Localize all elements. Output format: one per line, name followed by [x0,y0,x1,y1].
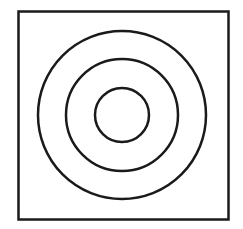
middle-circle [66,59,178,171]
outer-circle [38,31,206,199]
inner-circle [95,88,149,142]
outer-square [19,12,229,220]
diagram-canvas [0,0,243,229]
